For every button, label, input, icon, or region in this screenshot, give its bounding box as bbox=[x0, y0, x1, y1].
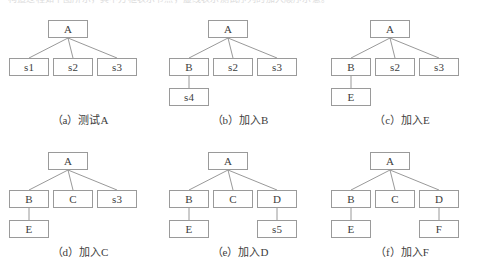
tree-node-b-child-s3: s3 bbox=[257, 58, 297, 76]
tree-edge bbox=[228, 38, 233, 58]
tree-node-c-child-s2: s2 bbox=[375, 58, 415, 76]
tree-node-f-child-b: B bbox=[331, 190, 371, 208]
tree-edge bbox=[68, 38, 73, 58]
tree-edge bbox=[68, 170, 73, 190]
tree-panel-b: ABs2s3s4（b）加入B bbox=[160, 8, 320, 135]
tree-panel-e: ABCDEs5（e）加入D bbox=[160, 140, 320, 267]
tree-node-f-child-c: C bbox=[375, 190, 415, 208]
panel-caption-d: （d）加入C bbox=[0, 246, 160, 259]
panel-caption-b: （b）加入B bbox=[160, 114, 320, 127]
tree-node-d-root-a: A bbox=[48, 152, 88, 170]
tree-node-e-child-c: C bbox=[213, 190, 253, 208]
tree-node-c-child-e: E bbox=[331, 88, 371, 106]
tree-node-a-child-s2: s2 bbox=[53, 58, 93, 76]
tree-node-e-child-e: E bbox=[169, 220, 209, 238]
tree-node-f-child-d: D bbox=[419, 190, 459, 208]
tree-node-b-root-a: A bbox=[208, 20, 248, 38]
tree-panel-a: As1s2s3（a）测试A bbox=[0, 8, 160, 135]
tree-edge bbox=[29, 38, 68, 58]
tree-edge bbox=[189, 38, 228, 58]
tree-panel-c: ABs2s3E（c）加入E bbox=[322, 8, 482, 135]
tree-edge bbox=[390, 170, 395, 190]
tree-panel-d: ABCs3E（d）加入C bbox=[0, 140, 160, 267]
tree-node-c-child-b: B bbox=[331, 58, 371, 76]
panel-caption-f: （f）加入F bbox=[322, 246, 482, 259]
tree-node-f-root-a: A bbox=[370, 152, 410, 170]
tree-node-a-child-s1: s1 bbox=[9, 58, 49, 76]
tree-node-c-child-s3: s3 bbox=[419, 58, 459, 76]
cut-off-body-text: 构造过程如下图所示，其中方框表示节点，虚线表示测试序列的加入顺序示意。 bbox=[8, 0, 474, 4]
tree-node-e-child-s5: s5 bbox=[257, 220, 297, 238]
tree-edge bbox=[390, 38, 439, 58]
tree-node-e-root-a: A bbox=[208, 152, 248, 170]
tree-construction-figure: 构造过程如下图所示，其中方框表示节点，虚线表示测试序列的加入顺序示意。 As1s… bbox=[0, 0, 482, 267]
tree-edge bbox=[390, 38, 395, 58]
tree-edge bbox=[68, 38, 117, 58]
tree-node-a-child-s3: s3 bbox=[97, 58, 137, 76]
tree-node-a-root-a: A bbox=[48, 20, 88, 38]
tree-node-d-child-s3: s3 bbox=[97, 190, 137, 208]
tree-node-b-child-s4: s4 bbox=[169, 88, 209, 106]
tree-edge bbox=[228, 170, 233, 190]
tree-edge bbox=[189, 170, 228, 190]
panel-caption-a: （a）测试A bbox=[0, 114, 160, 127]
tree-node-d-child-b: B bbox=[9, 190, 49, 208]
tree-edge bbox=[68, 170, 117, 190]
tree-node-f-child-f: F bbox=[419, 220, 459, 238]
tree-node-d-child-e: E bbox=[9, 220, 49, 238]
tree-node-e-child-d: D bbox=[257, 190, 297, 208]
tree-edge bbox=[351, 38, 390, 58]
tree-node-b-child-s2: s2 bbox=[213, 58, 253, 76]
tree-panel-f: ABCDEF（f）加入F bbox=[322, 140, 482, 267]
tree-node-c-root-a: A bbox=[370, 20, 410, 38]
tree-node-f-child-e: E bbox=[331, 220, 371, 238]
tree-node-b-child-b: B bbox=[169, 58, 209, 76]
tree-edge bbox=[228, 170, 277, 190]
tree-edge bbox=[29, 170, 68, 190]
tree-node-d-child-c: C bbox=[53, 190, 93, 208]
panel-caption-e: （e）加入D bbox=[160, 246, 320, 259]
panel-caption-c: （c）加入E bbox=[322, 114, 482, 127]
tree-edge bbox=[390, 170, 439, 190]
tree-node-e-child-b: B bbox=[169, 190, 209, 208]
tree-edge bbox=[228, 38, 277, 58]
tree-edge bbox=[351, 170, 390, 190]
